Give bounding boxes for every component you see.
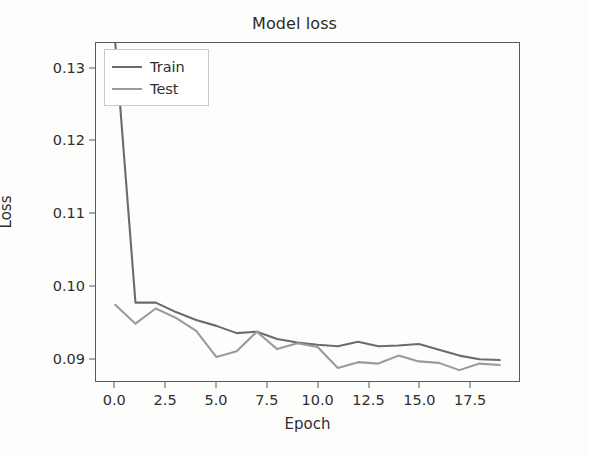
x-tick-mark [368,382,369,388]
legend-item-test: Test [112,78,201,100]
legend-item-train: Train [112,56,201,78]
matplotlib-figure: Model loss 0.090.100.110.120.13 0.02.55.… [0,0,589,458]
y-axis-label: Loss [0,196,15,229]
x-tick-label: 17.5 [454,392,486,408]
legend: Train Test [104,49,209,106]
y-tick-label: 0.09 [33,351,85,367]
x-tick-label: 12.5 [352,392,384,408]
legend-label-test: Test [150,82,179,97]
x-tick-mark [470,382,471,388]
x-tick-label: 15.0 [403,392,435,408]
x-tick-label: 5.0 [204,392,227,408]
y-tick-label: 0.11 [33,205,85,221]
x-tick-label: 2.5 [154,392,177,408]
series-line-test [115,305,500,370]
x-tick-mark [317,382,318,388]
x-tick-label: 10.0 [302,392,334,408]
chart-title: Model loss [0,14,589,33]
y-tick-label: 0.10 [33,278,85,294]
legend-swatch-test [112,88,142,90]
y-tick-label: 0.12 [33,132,85,148]
x-tick-label: 7.5 [255,392,278,408]
x-tick-mark [114,382,115,388]
x-tick-mark [165,382,166,388]
legend-label-train: Train [150,60,185,75]
x-tick-mark [266,382,267,388]
x-tick-label: 0.0 [103,392,126,408]
y-tick-label: 0.13 [33,60,85,76]
legend-swatch-train [112,66,142,68]
x-tick-mark [215,382,216,388]
x-tick-mark [419,382,420,388]
x-axis-label: Epoch [95,415,520,433]
